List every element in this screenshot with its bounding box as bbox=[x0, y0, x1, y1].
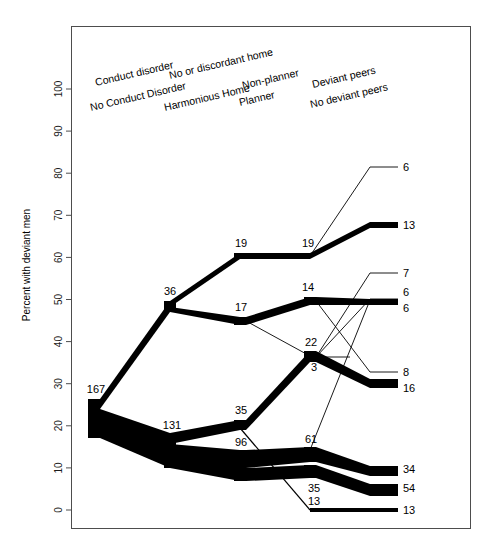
endlabel-6c: 6 bbox=[403, 302, 409, 314]
endcap-13a bbox=[370, 222, 398, 228]
ribbon-131-to-96 bbox=[170, 444, 240, 481]
ribbon-13-flat bbox=[310, 508, 398, 512]
node-cap-35b bbox=[304, 465, 316, 478]
node-cap-19a bbox=[234, 253, 300, 259]
ribbon-14-to-e6c bbox=[316, 297, 370, 305]
y-tick-60: 60 bbox=[53, 251, 64, 263]
label-14: 14 bbox=[302, 281, 314, 293]
ribbon-17-to-14 bbox=[246, 297, 310, 325]
ribbon-root-to-nocd bbox=[100, 409, 170, 468]
endlabel-13a: 13 bbox=[403, 219, 415, 231]
y-tick-20: 20 bbox=[53, 420, 64, 432]
flow-diagram-svg: 0 10 20 30 40 50 60 70 80 90 100 Percent… bbox=[0, 0, 486, 557]
ribbon-root-to-cd bbox=[100, 301, 170, 409]
label-35a: 35 bbox=[235, 404, 247, 416]
label-19a: 19 bbox=[235, 237, 247, 249]
ribbon-35-to-22 bbox=[246, 351, 310, 430]
endcap-54 bbox=[370, 484, 398, 496]
endcap-16 bbox=[370, 379, 398, 388]
flow-ribbons bbox=[88, 222, 398, 512]
ribbon-36-to-19 bbox=[170, 253, 240, 307]
node-cap-14 bbox=[304, 297, 316, 305]
node-cap-96 bbox=[234, 450, 246, 481]
label-3: 3 bbox=[311, 361, 317, 373]
ribbon-19-to-e13 bbox=[310, 222, 370, 259]
label-36: 36 bbox=[164, 285, 176, 297]
y-axis-ticks bbox=[66, 89, 72, 510]
endlabel-16: 16 bbox=[403, 382, 415, 394]
endlabel-34: 34 bbox=[403, 463, 415, 475]
label-17: 17 bbox=[235, 301, 247, 313]
label-19b: 19 bbox=[302, 237, 314, 249]
y-tick-30: 30 bbox=[53, 378, 64, 390]
y-tick-100: 100 bbox=[53, 80, 64, 97]
endcap-34 bbox=[370, 466, 398, 476]
endpoint-value-labels: 6 13 7 6 6 8 16 34 54 13 bbox=[403, 161, 415, 516]
label-131: 131 bbox=[163, 419, 181, 431]
y-axis-tick-labels: 0 10 20 30 40 50 60 70 80 90 100 bbox=[53, 80, 64, 513]
ribbon-96-to-61 bbox=[246, 447, 310, 468]
ribbon-root-cap bbox=[88, 399, 100, 438]
label-13a: 13 bbox=[308, 495, 320, 507]
y-tick-10: 10 bbox=[53, 462, 64, 474]
ribbon-19-to-19 bbox=[300, 253, 310, 259]
endlabel-13b: 13 bbox=[403, 504, 415, 516]
endlabel-54: 54 bbox=[403, 482, 415, 494]
y-tick-50: 50 bbox=[53, 294, 64, 306]
line-17-to-22 bbox=[246, 321, 310, 356]
endlabel-7: 7 bbox=[403, 267, 409, 279]
y-tick-90: 90 bbox=[53, 125, 64, 137]
endcap-6c bbox=[370, 299, 398, 305]
chart-canvas: 0 10 20 30 40 50 60 70 80 90 100 Percent… bbox=[0, 0, 486, 557]
y-axis-title: Percent with deviant men bbox=[21, 209, 32, 321]
label-167: 167 bbox=[87, 383, 105, 395]
column-headers: Conduct disorder No or discordant home N… bbox=[89, 45, 389, 113]
y-tick-0: 0 bbox=[53, 507, 64, 513]
y-tick-40: 40 bbox=[53, 336, 64, 348]
endlabel-8: 8 bbox=[403, 366, 409, 378]
y-tick-80: 80 bbox=[53, 167, 64, 179]
line-22-to-e6b bbox=[316, 299, 398, 357]
label-35b: 35 bbox=[308, 482, 320, 494]
label-22: 22 bbox=[305, 336, 317, 348]
ribbon-36-to-17 bbox=[170, 307, 240, 325]
label-61: 61 bbox=[305, 433, 317, 445]
y-tick-70: 70 bbox=[53, 209, 64, 221]
node-cap-17 bbox=[234, 317, 246, 325]
endlabel-6b: 6 bbox=[403, 286, 409, 298]
header-non-planner: Non-planner bbox=[241, 66, 300, 91]
line-19-to-e6a bbox=[310, 167, 398, 256]
endlabel-6a: 6 bbox=[403, 161, 409, 173]
label-96: 96 bbox=[235, 436, 247, 448]
